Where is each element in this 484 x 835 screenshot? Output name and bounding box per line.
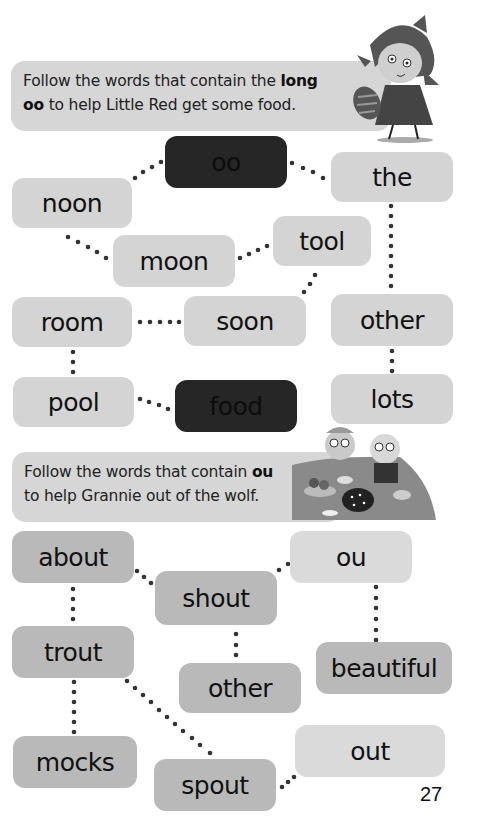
word-label: oo	[211, 148, 241, 177]
page-number: 27	[420, 783, 442, 806]
word-label: out	[350, 737, 389, 766]
word-box-start-ou[interactable]: ou	[290, 531, 412, 583]
instruction-bold: ou	[252, 463, 273, 481]
word-box-soon[interactable]: soon	[184, 296, 306, 346]
instruction-bold: long	[280, 72, 317, 90]
word-label: lots	[370, 385, 413, 414]
word-label: moon	[140, 247, 209, 276]
instruction-text: to help Little Red get some food.	[44, 96, 296, 114]
word-box-room[interactable]: room	[12, 297, 132, 347]
word-label: about	[38, 543, 108, 572]
word-label: beautiful	[331, 654, 437, 683]
word-label: spout	[181, 771, 248, 800]
word-box-other[interactable]: other	[179, 663, 301, 713]
word-box-beautiful[interactable]: beautiful	[316, 642, 452, 694]
word-label: other	[208, 674, 272, 703]
word-box-moon[interactable]: moon	[113, 235, 235, 287]
word-box-noon[interactable]: noon	[12, 178, 132, 228]
word-label: the	[372, 163, 412, 192]
word-box-end-food[interactable]: food	[175, 380, 297, 432]
word-label: pool	[48, 388, 99, 417]
word-box-trout[interactable]: trout	[12, 626, 134, 678]
instruction-text: Follow the words that contain	[24, 463, 252, 481]
word-box-tool[interactable]: tool	[273, 216, 371, 266]
grannie-tea-party-illustration	[290, 425, 436, 525]
word-label: noon	[42, 189, 102, 218]
word-label: soon	[216, 307, 273, 336]
word-box-start-oo[interactable]: oo	[165, 136, 287, 188]
instruction-text: Follow the words that contain the	[23, 72, 280, 90]
word-label: trout	[44, 638, 102, 667]
word-label: room	[41, 308, 104, 337]
instruction-text: to help Grannie out of the wolf.	[24, 487, 259, 505]
word-box-about[interactable]: about	[12, 531, 134, 583]
little-red-illustration	[345, 15, 445, 145]
word-box-other[interactable]: other	[331, 294, 453, 346]
word-label: shout	[182, 584, 249, 613]
word-label: other	[360, 306, 424, 335]
instruction-bold: oo	[23, 96, 44, 114]
word-label: ou	[336, 543, 366, 572]
word-box-lots[interactable]: lots	[331, 374, 453, 424]
word-box-end-out[interactable]: out	[295, 725, 445, 777]
word-box-the[interactable]: the	[331, 152, 453, 202]
word-label: tool	[299, 227, 344, 256]
word-label: food	[209, 392, 262, 421]
word-box-spout[interactable]: spout	[154, 759, 276, 811]
word-box-mocks[interactable]: mocks	[13, 736, 137, 788]
instruction-banner-1: Follow the words that contain the long o…	[11, 61, 391, 131]
word-box-shout[interactable]: shout	[155, 571, 277, 625]
word-label: mocks	[36, 748, 114, 777]
word-box-pool[interactable]: pool	[13, 377, 134, 427]
